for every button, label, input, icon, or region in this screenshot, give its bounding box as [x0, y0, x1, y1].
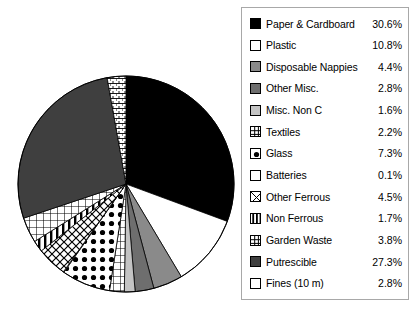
legend-swatch-grid-icon — [250, 235, 261, 246]
legend-swatch-solid-icon — [250, 40, 261, 51]
legend-item[interactable]: Other Misc.2.8% — [250, 79, 402, 98]
legend-item-percentage: 2.2% — [362, 126, 402, 138]
legend-item-label: Misc. Non C — [266, 104, 362, 116]
legend-item-label: Garden Waste — [266, 234, 362, 246]
legend-item[interactable]: Batteries0.1% — [250, 166, 402, 185]
legend-item-percentage: 10.8% — [362, 39, 402, 51]
legend-swatch-grid-icon — [250, 126, 261, 137]
pie-slice-group — [18, 76, 234, 292]
legend-item-percentage: 4.5% — [362, 191, 402, 203]
legend-item[interactable]: Paper & Cardboard30.6% — [250, 14, 402, 33]
legend-item[interactable]: Misc. Non C1.6% — [250, 101, 402, 120]
legend-item-label: Glass — [266, 147, 362, 159]
legend-item[interactable]: Fines (10 m)2.8% — [250, 274, 402, 293]
legend-item-percentage: 0.1% — [362, 169, 402, 181]
legend-swatch-solid-icon — [250, 256, 261, 267]
legend-swatch-cross-icon — [250, 191, 261, 202]
legend-item-label: Other Misc. — [266, 82, 362, 94]
legend-item-percentage: 1.6% — [362, 104, 402, 116]
legend-item[interactable]: Glass7.3% — [250, 144, 402, 163]
legend-item-percentage: 7.3% — [362, 147, 402, 159]
legend-item-label: Non Ferrous — [266, 212, 362, 224]
legend-item-label: Paper & Cardboard — [266, 18, 362, 30]
legend-swatch-solid-icon — [250, 83, 261, 94]
legend-item[interactable]: Non Ferrous1.7% — [250, 209, 402, 228]
legend-item-percentage: 3.8% — [362, 234, 402, 246]
legend-item-label: Putrescible — [266, 256, 362, 268]
pie-chart — [8, 66, 244, 302]
legend-item[interactable]: Garden Waste3.8% — [250, 231, 402, 250]
legend-item-percentage: 2.8% — [362, 82, 402, 94]
legend-item-label: Fines (10 m) — [266, 277, 362, 289]
legend-swatch-solid-icon — [250, 105, 261, 116]
legend-item[interactable]: Putrescible27.3% — [250, 252, 402, 271]
legend-box: Paper & Cardboard30.6%Plastic10.8%Dispos… — [241, 7, 409, 300]
legend-item[interactable]: Plastic10.8% — [250, 36, 402, 55]
pie-chart-svg — [8, 66, 244, 302]
legend-item-percentage: 30.6% — [362, 18, 402, 30]
legend-swatch-brick-icon — [250, 278, 261, 289]
legend-item[interactable]: Disposable Nappies4.4% — [250, 57, 402, 76]
legend-list: Paper & Cardboard30.6%Plastic10.8%Dispos… — [242, 8, 408, 299]
legend-swatch-solid-icon — [250, 61, 261, 72]
legend-item-label: Other Ferrous — [266, 191, 362, 203]
legend-item[interactable]: Other Ferrous4.5% — [250, 187, 402, 206]
legend-swatch-solid-icon — [250, 170, 261, 181]
legend-item-label: Textiles — [266, 126, 362, 138]
legend-item-percentage: 2.8% — [362, 277, 402, 289]
legend-swatch-dots-icon — [250, 148, 261, 159]
legend-item-percentage: 4.4% — [362, 61, 402, 73]
legend-swatch-solid-icon — [250, 18, 261, 29]
legend-item-percentage: 1.7% — [362, 212, 402, 224]
legend-item-label: Plastic — [266, 39, 362, 51]
pie-chart-figure: Paper & Cardboard30.6%Plastic10.8%Dispos… — [0, 0, 412, 320]
legend-item-label: Batteries — [266, 169, 362, 181]
legend-item[interactable]: Textiles2.2% — [250, 122, 402, 141]
legend-item-label: Disposable Nappies — [266, 61, 362, 73]
legend-item-percentage: 27.3% — [362, 256, 402, 268]
legend-swatch-vstripe-icon — [250, 213, 261, 224]
